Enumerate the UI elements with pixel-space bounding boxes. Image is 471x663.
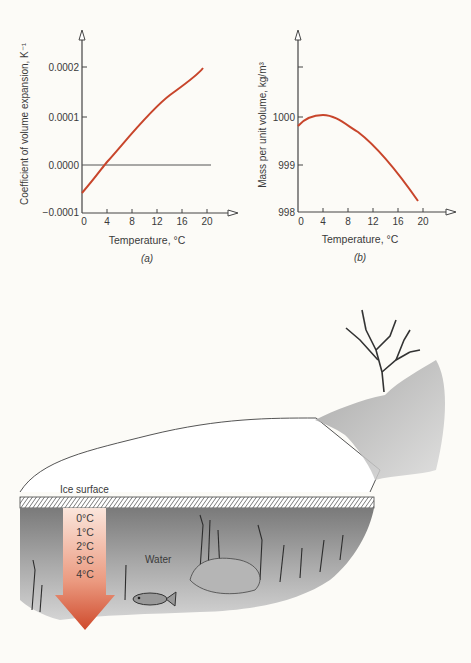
x-axis-label: Temperature, °C bbox=[109, 234, 186, 246]
svg-text:8: 8 bbox=[345, 216, 351, 227]
svg-text:1000: 1000 bbox=[273, 112, 296, 123]
svg-text:8: 8 bbox=[129, 216, 135, 227]
svg-text:20: 20 bbox=[417, 216, 429, 227]
svg-text:12: 12 bbox=[151, 216, 163, 227]
panel-label: (b) bbox=[354, 252, 366, 263]
temp-label: 3°C bbox=[76, 554, 94, 566]
svg-text:0: 0 bbox=[298, 216, 304, 227]
temp-label: 2°C bbox=[76, 540, 94, 552]
svg-text:0: 0 bbox=[81, 216, 87, 227]
svg-text:4: 4 bbox=[104, 216, 110, 227]
y-axis-label: Coefficient of volume expansion, K⁻¹ bbox=[19, 42, 30, 205]
pond-illustration: 0°C 1°C 2°C 3°C 4°C Ice surface Water bbox=[20, 310, 445, 630]
y-tick: −0.0001 bbox=[43, 207, 80, 218]
panel-label: (a) bbox=[141, 253, 153, 264]
temp-label: 1°C bbox=[76, 526, 94, 538]
svg-text:4: 4 bbox=[320, 216, 326, 227]
svg-text:999: 999 bbox=[278, 160, 295, 171]
y-tick: 0.0000 bbox=[48, 160, 79, 171]
temp-label: 0°C bbox=[76, 512, 94, 524]
svg-text:998: 998 bbox=[278, 207, 295, 218]
temp-label: 4°C bbox=[76, 568, 94, 580]
chart-b: 1000 999 998 048 121620 Mass per unit vo… bbox=[257, 30, 456, 263]
y-tick: 0.0002 bbox=[48, 62, 79, 73]
ice-surface-label: Ice surface bbox=[60, 484, 109, 495]
y-axis-label: Mass per unit volume, kg/m³ bbox=[257, 62, 268, 188]
svg-text:20: 20 bbox=[201, 216, 213, 227]
figure: 0.0002 0.0001 0.0000 −0.0001 048 121620 … bbox=[0, 0, 471, 663]
x-axis-label: Temperature, °C bbox=[322, 233, 399, 245]
water-label: Water bbox=[145, 554, 172, 565]
svg-text:16: 16 bbox=[392, 216, 404, 227]
y-tick: 0.0001 bbox=[48, 112, 79, 123]
svg-text:16: 16 bbox=[176, 216, 188, 227]
svg-text:12: 12 bbox=[367, 216, 379, 227]
chart-a: 0.0002 0.0001 0.0000 −0.0001 048 121620 … bbox=[19, 30, 238, 264]
